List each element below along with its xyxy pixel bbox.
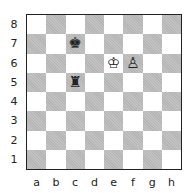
rank-label-2: 2 [9, 134, 19, 147]
square-g6 [143, 54, 162, 73]
square-g8 [143, 15, 162, 34]
square-h2 [162, 131, 181, 150]
square-a7 [27, 34, 46, 53]
rank-label-1: 1 [9, 153, 19, 166]
square-f4 [123, 92, 142, 111]
rank-label-3: 3 [9, 114, 19, 127]
file-label-f: f [123, 176, 142, 189]
rank-label-4: 4 [9, 95, 19, 108]
square-e1 [104, 150, 123, 169]
square-e5 [104, 73, 123, 92]
square-b1 [46, 150, 65, 169]
file-label-e: e [104, 176, 123, 189]
square-b3 [46, 111, 65, 130]
square-f8 [123, 15, 142, 34]
rank-label-8: 8 [9, 18, 19, 31]
file-label-g: g [143, 176, 162, 189]
square-c4 [66, 92, 85, 111]
square-h6 [162, 54, 181, 73]
square-h1 [162, 150, 181, 169]
file-label-d: d [85, 176, 104, 189]
square-a4 [27, 92, 46, 111]
black-rook-icon: ♜ [66, 73, 85, 92]
square-b8 [46, 15, 65, 34]
square-d6 [85, 54, 104, 73]
square-h8 [162, 15, 181, 34]
square-a2 [27, 131, 46, 150]
square-e3 [104, 111, 123, 130]
square-d5 [85, 73, 104, 92]
square-a3 [27, 111, 46, 130]
file-label-c: c [66, 176, 85, 189]
square-a6 [27, 54, 46, 73]
square-e2 [104, 131, 123, 150]
square-c2 [66, 131, 85, 150]
square-b4 [46, 92, 65, 111]
square-c3 [66, 111, 85, 130]
square-g1 [143, 150, 162, 169]
square-g4 [143, 92, 162, 111]
square-h3 [162, 111, 181, 130]
square-d8 [85, 15, 104, 34]
square-h4 [162, 92, 181, 111]
square-f3 [123, 111, 142, 130]
square-g5 [143, 73, 162, 92]
white-king-icon: ♔ [104, 54, 123, 73]
chess-board: ♚♔♙♜ [26, 14, 182, 170]
square-b2 [46, 131, 65, 150]
file-label-a: a [27, 176, 46, 189]
square-b7 [46, 34, 65, 53]
square-f7 [123, 34, 142, 53]
square-d1 [85, 150, 104, 169]
square-f1 [123, 150, 142, 169]
square-c1 [66, 150, 85, 169]
square-e8 [104, 15, 123, 34]
square-a5 [27, 73, 46, 92]
square-b5 [46, 73, 65, 92]
square-g7 [143, 34, 162, 53]
square-b6 [46, 54, 65, 73]
square-h5 [162, 73, 181, 92]
file-label-b: b [46, 176, 65, 189]
file-label-h: h [162, 176, 181, 189]
square-e7 [104, 34, 123, 53]
square-d4 [85, 92, 104, 111]
square-a1 [27, 150, 46, 169]
rank-label-5: 5 [9, 76, 19, 89]
square-c8 [66, 15, 85, 34]
square-a8 [27, 15, 46, 34]
white-pawn-icon: ♙ [123, 54, 142, 73]
rank-label-7: 7 [9, 37, 19, 50]
square-f2 [123, 131, 142, 150]
square-c6 [66, 54, 85, 73]
black-king-icon: ♚ [66, 34, 85, 53]
square-d7 [85, 34, 104, 53]
square-d3 [85, 111, 104, 130]
square-f5 [123, 73, 142, 92]
square-d2 [85, 131, 104, 150]
square-h7 [162, 34, 181, 53]
square-g2 [143, 131, 162, 150]
rank-label-6: 6 [9, 57, 19, 70]
square-e4 [104, 92, 123, 111]
square-g3 [143, 111, 162, 130]
